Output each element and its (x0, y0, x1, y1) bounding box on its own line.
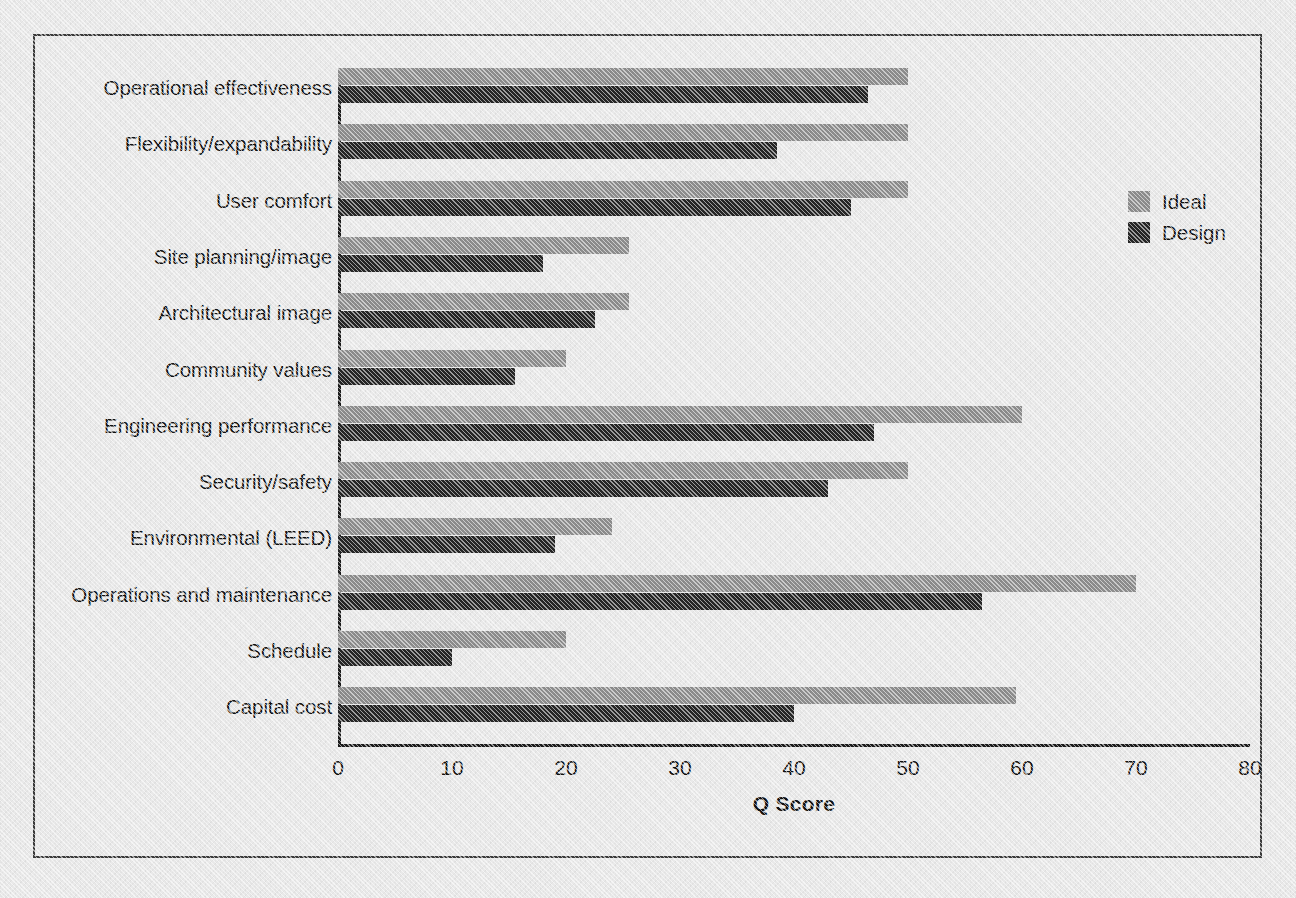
legend-item-design: Design (1128, 217, 1258, 248)
category-label: Engineering performance (60, 414, 332, 438)
bar-ideal (338, 237, 629, 254)
x-tick-label: 70 (1106, 756, 1166, 780)
category-label: Community values (60, 358, 332, 382)
bar-ideal (338, 575, 1136, 592)
category-label: Architectural image (60, 301, 332, 325)
bar-ideal (338, 687, 1016, 704)
bar-design (338, 255, 543, 272)
bar-ideal (338, 124, 908, 141)
bar-ideal (338, 631, 566, 648)
x-tick-label: 20 (536, 756, 596, 780)
category-label: Capital cost (60, 695, 332, 719)
bar-design (338, 142, 777, 159)
bar-ideal (338, 293, 629, 310)
category-label: Schedule (60, 639, 332, 663)
category-label: User comfort (60, 189, 332, 213)
x-tick-label: 10 (422, 756, 482, 780)
legend-swatch-design (1128, 222, 1150, 243)
bar-design (338, 649, 452, 666)
bar-ideal (338, 181, 908, 198)
bar-design (338, 705, 794, 722)
category-label: Site planning/image (60, 245, 332, 269)
bar-ideal (338, 462, 908, 479)
legend-swatch-ideal (1128, 191, 1150, 212)
category-label: Operations and maintenance (60, 583, 332, 607)
bar-ideal (338, 406, 1022, 423)
category-label: Environmental (LEED) (60, 526, 332, 550)
chart-legend: Ideal Design (1128, 186, 1258, 248)
bar-design (338, 424, 874, 441)
bar-design (338, 593, 982, 610)
x-tick-label: 50 (878, 756, 938, 780)
category-label: Operational effectiveness (60, 76, 332, 100)
x-tick-label: 80 (1220, 756, 1280, 780)
legend-label-design: Design (1162, 221, 1226, 245)
legend-item-ideal: Ideal (1128, 186, 1258, 217)
category-label: Flexibility/expandability (60, 132, 332, 156)
x-tick-label: 60 (992, 756, 1052, 780)
x-tick-label: 40 (764, 756, 824, 780)
chart-plot-area: Operational effectivenessFlexibility/exp… (0, 0, 1296, 898)
bar-design (338, 480, 828, 497)
category-label: Security/safety (60, 470, 332, 494)
x-axis-line (338, 744, 1250, 747)
bar-design (338, 199, 851, 216)
x-axis-title: Q Score (338, 792, 1250, 816)
bar-ideal (338, 518, 612, 535)
legend-label-ideal: Ideal (1162, 190, 1206, 214)
bar-design (338, 536, 555, 553)
x-tick-label: 0 (308, 756, 368, 780)
bar-design (338, 368, 515, 385)
bar-ideal (338, 350, 566, 367)
bar-ideal (338, 68, 908, 85)
x-tick-label: 30 (650, 756, 710, 780)
bar-design (338, 311, 595, 328)
bar-design (338, 86, 868, 103)
